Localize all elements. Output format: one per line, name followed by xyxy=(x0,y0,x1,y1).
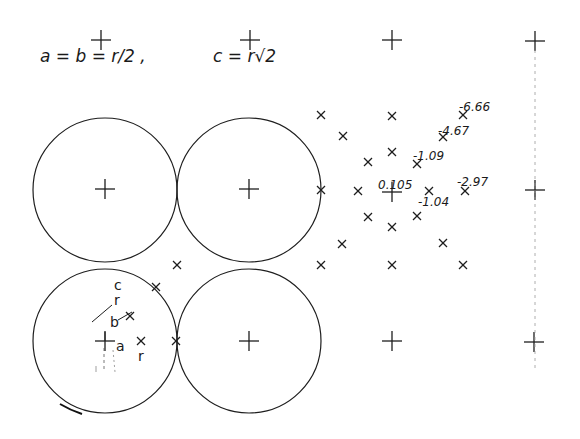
x-marker-icon xyxy=(338,240,346,248)
plus-marker-icon xyxy=(239,331,259,351)
plus-marker-icon xyxy=(382,30,402,50)
x-marker-icon xyxy=(364,158,372,166)
x-marker-icon xyxy=(364,213,372,221)
x-marker-icon xyxy=(425,187,433,195)
formula-c: c = r√2 xyxy=(213,46,276,66)
label-c: c xyxy=(114,277,122,293)
formula-a-b: a = b = r/2 , xyxy=(40,46,146,66)
lattice-point-markers xyxy=(91,30,545,352)
plus-marker-icon xyxy=(525,31,545,51)
x-marker-icon xyxy=(354,187,362,195)
x-marker-icon xyxy=(388,261,396,269)
value-label: -2.97 xyxy=(457,175,488,189)
x-marker-icon xyxy=(413,212,421,220)
label-b: b xyxy=(110,314,119,330)
plus-marker-icon xyxy=(239,179,259,199)
x-marker-icon xyxy=(339,132,347,140)
x-marker-icon xyxy=(173,261,181,269)
x-marker-icon xyxy=(388,148,396,156)
label-r-top: r xyxy=(114,292,120,308)
value-label: -1.04 xyxy=(418,195,449,209)
plus-marker-icon xyxy=(524,332,544,352)
x-marker-icon xyxy=(439,239,447,247)
label-a: a xyxy=(116,338,125,354)
x-marker-icon xyxy=(317,111,325,119)
construction-lines xyxy=(60,305,132,414)
x-marker-icon xyxy=(459,261,467,269)
x-marker-icon xyxy=(388,112,396,120)
plus-marker-icon xyxy=(382,331,402,351)
x-marker-icon xyxy=(172,337,180,345)
value-label: -4.67 xyxy=(438,124,469,138)
label-r-right: r xyxy=(138,348,144,364)
x-marker-icon xyxy=(388,223,396,231)
hand-drawn-diagram: a = b = r/2 , c = r√2 -6.66-4.67-1.090.1… xyxy=(0,0,580,439)
x-marker-icon xyxy=(137,337,145,345)
x-marker-icon xyxy=(317,261,325,269)
interstitial-point-markers xyxy=(126,111,469,345)
value-label: -6.66 xyxy=(459,100,490,114)
value-label: -1.09 xyxy=(413,149,444,163)
value-label: 0.105 xyxy=(378,178,412,192)
plus-marker-icon xyxy=(95,179,115,199)
